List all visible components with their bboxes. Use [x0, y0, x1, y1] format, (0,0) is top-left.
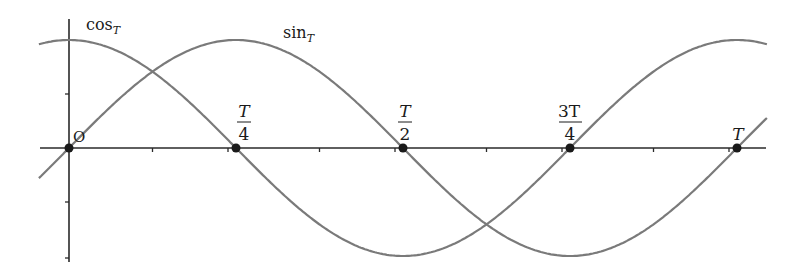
zero-crossing-point: [399, 144, 408, 153]
svg-text:T: T: [399, 101, 412, 121]
label-t-quarter: T 4: [237, 101, 251, 144]
label-t: T: [732, 124, 745, 144]
zero-crossing-point: [232, 144, 241, 153]
cos-label: cosT: [86, 15, 122, 37]
zero-crossing-point: [566, 144, 575, 153]
label-3t-quarter: 3T 4: [558, 101, 582, 144]
svg-text:4: 4: [565, 124, 576, 144]
zero-crossing-point: [733, 144, 742, 153]
origin-label: O: [73, 128, 85, 146]
svg-text:4: 4: [239, 124, 250, 144]
svg-text:2: 2: [400, 124, 411, 144]
label-t-half: T 2: [398, 101, 412, 144]
sine-cosine-chart: cosT sinT O T 4 T 2 3T 4 T: [0, 0, 798, 274]
sin-label: sinT: [283, 23, 316, 45]
svg-text:3T: 3T: [558, 101, 581, 121]
svg-text:T: T: [238, 101, 251, 121]
